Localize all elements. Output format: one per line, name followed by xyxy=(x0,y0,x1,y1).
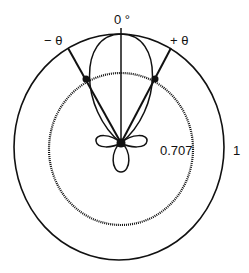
half-power-point-right xyxy=(152,76,159,83)
origin-dot xyxy=(117,139,126,148)
half-power-radius-label: 0.707 xyxy=(160,143,193,158)
plus-theta-label: + θ xyxy=(170,33,188,48)
half-power-point-left xyxy=(83,76,90,83)
radiation-pattern-diagram: 0 ° − θ + θ 0.707 1 xyxy=(0,0,249,273)
unit-radius-label: 1 xyxy=(233,143,240,158)
plus-theta-line xyxy=(121,48,171,143)
zero-angle-label: 0 ° xyxy=(114,12,130,27)
minus-theta-line xyxy=(68,48,121,143)
minus-theta-label: − θ xyxy=(44,33,62,48)
